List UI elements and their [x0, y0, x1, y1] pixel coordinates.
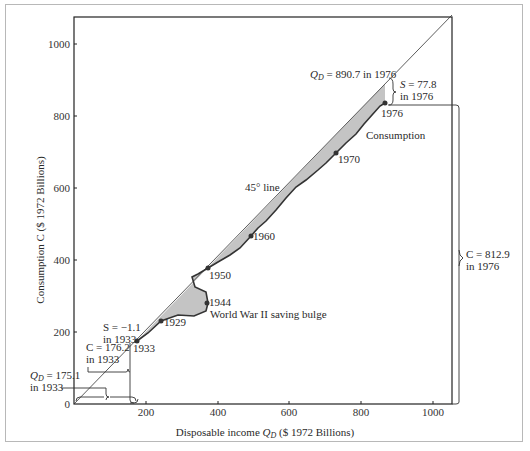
svg-text:200: 200 — [54, 326, 71, 338]
svg-text:200: 200 — [138, 406, 155, 418]
label-qd-1933-year: in 1933 — [30, 381, 64, 393]
svg-text:400: 400 — [210, 406, 227, 418]
svg-text:1000: 1000 — [48, 38, 71, 50]
label-wwii-bulge: World War II saving bulge — [210, 308, 327, 320]
x-axis-title: Disposable income QD ($ 1972 Billions) — [176, 426, 355, 440]
svg-text:800: 800 — [353, 406, 370, 418]
svg-text:0: 0 — [65, 398, 71, 410]
y-axis-title: Consumption C ($ 1972 Billions) — [34, 156, 47, 304]
svg-text:800: 800 — [54, 110, 71, 122]
label-qd-1976: QD = 890.7 in 1976 — [310, 68, 397, 82]
label-c-1976: C = 812.9 — [466, 248, 510, 260]
dot-1976 — [383, 101, 388, 106]
c-1933-brace — [88, 367, 134, 403]
label-c-1933-year: in 1933 — [86, 353, 120, 365]
consumption-chart: 0 200 400 600 800 1000 200 400 600 800 1… — [0, 0, 530, 451]
label-s-1976-year: in 1976 — [400, 90, 434, 102]
y-tick-labels: 0 200 400 600 800 1000 — [48, 38, 71, 410]
label-1933: 1933 — [133, 342, 156, 354]
label-1976: 1976 — [381, 107, 404, 119]
svg-text:400: 400 — [54, 254, 71, 266]
label-s-1933: S = −1.1 — [103, 321, 141, 333]
label-1960: 1960 — [253, 230, 276, 242]
label-c-1933: C = 176.2 — [86, 341, 130, 353]
qd-1933-brace — [61, 388, 136, 401]
label-1950: 1950 — [209, 269, 232, 281]
svg-text:1000: 1000 — [422, 406, 445, 418]
c-1976-bracket-top — [388, 105, 459, 404]
svg-text:600: 600 — [281, 406, 298, 418]
c-1976-brace-tip — [459, 250, 463, 266]
label-s-1976: S = 77.8 — [400, 78, 437, 90]
svg-text:600: 600 — [54, 182, 71, 194]
s-1976-brace — [389, 78, 396, 105]
label-1929: 1929 — [164, 316, 187, 328]
label-consumption: Consumption — [366, 129, 426, 141]
dot-1929 — [159, 319, 164, 324]
label-c-1976-year: in 1976 — [466, 260, 500, 272]
x-tick-labels: 200 400 600 800 1000 — [138, 406, 445, 418]
label-1970: 1970 — [338, 153, 361, 165]
label-1944: 1944 — [209, 296, 232, 308]
label-45-line: 45° line — [245, 181, 280, 193]
